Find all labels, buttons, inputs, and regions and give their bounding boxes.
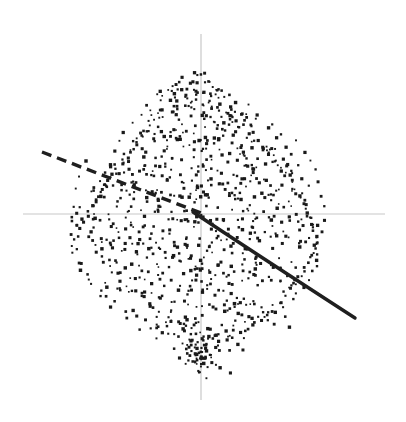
scatter-point — [297, 220, 299, 222]
scatter-point — [205, 114, 208, 117]
scatter-point — [245, 304, 247, 306]
scatter-point — [92, 189, 95, 192]
scatter-point — [195, 322, 197, 324]
scatter-point — [183, 323, 185, 325]
scatter-point — [201, 337, 204, 340]
scatter-point — [295, 213, 298, 216]
scatter-point — [95, 244, 97, 246]
scatter-point — [185, 363, 187, 365]
scatter-point — [178, 356, 181, 359]
scatter-point — [146, 256, 148, 258]
scatter-point — [256, 264, 258, 266]
scatter-point — [113, 300, 116, 303]
scatter-point — [138, 265, 140, 267]
scatter-point — [200, 347, 202, 349]
scatter-point — [191, 180, 193, 182]
scatter-point — [195, 266, 197, 268]
scatter-point — [282, 206, 285, 209]
scatter-point — [270, 199, 272, 201]
scatter-point — [266, 146, 268, 148]
scatter-point — [231, 283, 234, 286]
scatter-point — [199, 259, 202, 262]
scatter-point — [201, 314, 204, 317]
scatter-point — [123, 153, 125, 155]
scatter-point — [185, 236, 187, 238]
scatter-point — [228, 123, 230, 125]
scatter-point — [188, 258, 190, 260]
scatter-point — [283, 174, 286, 177]
scatter-point — [204, 347, 207, 350]
scatter-point — [209, 92, 212, 95]
scatter-point — [228, 307, 231, 310]
scatter-point — [238, 226, 240, 228]
scatter-point — [130, 222, 132, 224]
scatter-point — [211, 106, 213, 108]
scatter-point — [251, 141, 253, 143]
scatter-point — [220, 153, 223, 156]
scatter-point — [122, 162, 124, 164]
scatter-point — [102, 261, 105, 264]
scatter-point — [239, 153, 241, 155]
scatter-point — [196, 81, 199, 84]
scatter-point — [233, 194, 235, 196]
scatter-point — [208, 269, 210, 271]
scatter-point — [152, 225, 155, 228]
scatter-point — [249, 303, 251, 305]
scatter-point — [188, 105, 190, 107]
scatter-point — [159, 278, 162, 281]
scatter-point — [226, 338, 229, 341]
scatter-point — [173, 347, 176, 350]
scatter-point — [100, 237, 103, 240]
scatter-point — [193, 140, 196, 143]
scatter-point — [273, 154, 275, 156]
scatter-point — [152, 252, 155, 255]
scatter-point — [316, 237, 318, 239]
scatter-point — [206, 139, 209, 142]
scatter-point — [248, 132, 251, 135]
scatter-point — [153, 175, 156, 178]
scatter-point — [227, 336, 229, 338]
scatter-point — [77, 235, 80, 238]
scatter-point — [242, 269, 245, 272]
scatter-point — [270, 279, 273, 282]
scatter-point — [154, 164, 157, 167]
scatter-point — [109, 242, 112, 245]
scatter-point — [150, 110, 152, 112]
scatter-point — [268, 276, 270, 278]
scatter-point — [210, 278, 212, 280]
scatter-point — [156, 189, 158, 191]
scatter-point — [145, 196, 148, 199]
scatter-point — [199, 269, 202, 272]
scatter-point — [91, 239, 94, 242]
scatter-point — [103, 196, 106, 199]
scatter-point — [202, 92, 204, 94]
scatter-point — [135, 315, 138, 318]
scatter-point — [188, 354, 191, 357]
scatter-point — [217, 289, 220, 292]
scatter-point — [125, 217, 127, 219]
scatter-point — [160, 108, 163, 111]
scatter-point — [259, 262, 262, 265]
scatter-point — [299, 240, 302, 243]
scatter-point — [233, 270, 236, 273]
scatter-point — [282, 231, 284, 233]
scatter-point — [273, 215, 276, 218]
scatter-point — [244, 330, 247, 333]
scatter-point — [231, 142, 234, 145]
scatter-point — [112, 222, 115, 225]
scatter-point — [193, 133, 195, 135]
scatter-point — [288, 219, 291, 222]
scatter-point — [178, 252, 180, 254]
scatter-point — [231, 336, 234, 339]
scatter-point — [256, 284, 258, 286]
scatter-point — [187, 359, 189, 361]
scatter-point — [229, 335, 231, 337]
scatter-point — [278, 203, 280, 205]
scatter-point — [195, 198, 197, 200]
scatter-point — [298, 245, 301, 248]
scatter-point — [101, 255, 103, 257]
scatter-point — [195, 173, 198, 176]
scatter-point — [181, 123, 183, 125]
scatter-point — [175, 137, 178, 140]
scatter-point — [132, 198, 135, 201]
